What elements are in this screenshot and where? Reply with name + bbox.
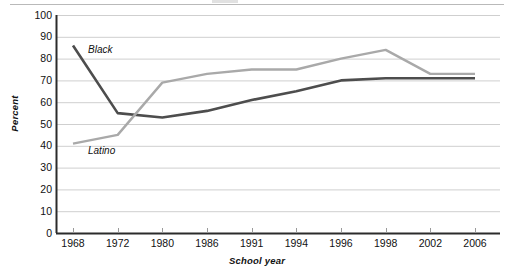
y-axis-tick-label: 60 xyxy=(24,97,52,108)
y-axis-tick-label: 40 xyxy=(24,140,52,151)
y-axis-tick-label: 20 xyxy=(24,184,52,195)
x-axis-title: School year xyxy=(0,255,514,266)
series-label-black: Black xyxy=(88,45,112,55)
y-axis-title: Percent xyxy=(9,79,20,149)
chart-figure: Percent School year 01020304050607080901… xyxy=(0,0,514,274)
series-label-latino: Latino xyxy=(88,146,115,156)
y-axis-tick-label: 30 xyxy=(24,162,52,173)
y-axis-tick-labels: 0102030405060708090100 xyxy=(24,0,52,274)
x-axis-tick-labels: 1968197219801986199119941996199820022006 xyxy=(0,238,514,256)
y-axis-tick-label: 70 xyxy=(24,75,52,86)
y-axis-tick-label: 50 xyxy=(24,119,52,130)
top-divider-rule xyxy=(10,4,504,5)
y-axis-tick-label: 90 xyxy=(24,31,52,42)
top-cropped-text-fragment xyxy=(212,0,238,3)
x-axis-tick-label: 2006 xyxy=(448,238,502,249)
y-axis-tick-label: 0 xyxy=(24,228,52,239)
plot-area xyxy=(0,0,514,274)
y-axis-tick-label: 10 xyxy=(24,206,52,217)
y-axis-tick-label: 80 xyxy=(24,53,52,64)
y-axis-tick-label: 100 xyxy=(24,10,52,21)
series-line-black xyxy=(73,46,475,118)
